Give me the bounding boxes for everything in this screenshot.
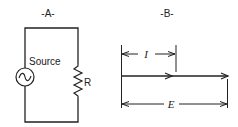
panel-b-title: -B- bbox=[160, 8, 173, 19]
panel-a-circuit: -A- Source R bbox=[16, 8, 91, 122]
resistor-icon bbox=[74, 64, 82, 98]
ac-source-icon bbox=[16, 68, 34, 86]
circuit-wire-bottom bbox=[25, 86, 78, 122]
current-label: I bbox=[143, 48, 149, 60]
source-label: Source bbox=[29, 56, 61, 67]
resistor-label: R bbox=[84, 77, 91, 88]
diagram-canvas: -A- Source R -B- I E bbox=[0, 0, 238, 127]
panel-a-title: -A- bbox=[41, 8, 54, 19]
voltage-label: E bbox=[167, 98, 175, 110]
panel-b-phasor: -B- I E bbox=[121, 8, 228, 110]
